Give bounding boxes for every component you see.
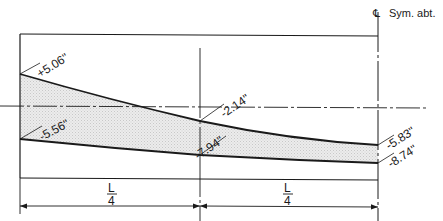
frame-top: [20, 34, 378, 36]
label-top-mid: -2.14": [218, 91, 252, 120]
symmetry-label: Sym. abt.: [389, 7, 435, 19]
dimension-left-numerator: L: [108, 181, 115, 195]
stress-diagram: +5.06" -5.56" -2.14" -7.94" -5.83" -8.74…: [0, 0, 443, 221]
dimension-right-denominator: 4: [284, 194, 291, 208]
dimension-right-fraction: L 4: [283, 181, 293, 208]
dimension-left-fraction: L 4: [107, 181, 117, 208]
dimension-right-numerator: L: [284, 181, 291, 195]
frame-bottom: [20, 178, 378, 180]
dimension-left-denominator: 4: [108, 194, 115, 208]
label-top-left: +5.06": [34, 50, 71, 80]
centerline-icon: ℄: [372, 7, 380, 19]
